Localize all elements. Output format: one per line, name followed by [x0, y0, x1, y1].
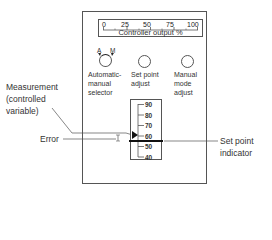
error-callout: Error — [40, 133, 59, 145]
set-point-indicator-callout: Set point indicator — [220, 135, 254, 159]
callout-line: indicator — [220, 147, 254, 159]
measurement-callout: Measurement (controlled variable) — [6, 81, 58, 117]
measurement-pointer-icon — [132, 131, 138, 139]
callout-line: Set point — [220, 135, 254, 147]
measurement-leader-line — [52, 108, 126, 133]
callout-line: (controlled — [6, 93, 58, 105]
callout-line: variable) — [6, 105, 58, 117]
callout-line: Measurement — [6, 81, 58, 93]
